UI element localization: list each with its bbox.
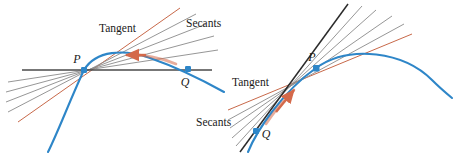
right-curve [248,54,452,152]
left-point-q-label: Q [181,75,190,89]
left-secants-label: Secants [186,17,222,29]
right-secant-line-2 [232,10,376,138]
right-motion-arrow [276,90,294,112]
left-point-p-label: P [72,52,81,66]
right-secants-label: Secants [196,116,232,128]
figure-canvas: P Q Tangent Secants [0,0,455,154]
tangent-secant-figure: P Q Tangent Secants [0,0,455,154]
right-point-p-marker [313,65,320,72]
right-point-q-label: Q [262,127,271,141]
right-point-q-marker [253,128,259,134]
right-panel: P Q Tangent Secants [196,4,452,152]
left-curve [48,53,224,152]
left-point-q-marker [185,66,191,72]
right-tangent-label: Tangent [232,76,270,89]
left-point-p-marker [81,67,87,73]
right-point-p-label: P [307,50,316,64]
right-secant-line-4 [228,24,404,120]
right-secant-line-5 [228,34,412,110]
left-tangent-label: Tangent [99,22,137,35]
left-panel: P Q Tangent Secants [6,8,224,152]
